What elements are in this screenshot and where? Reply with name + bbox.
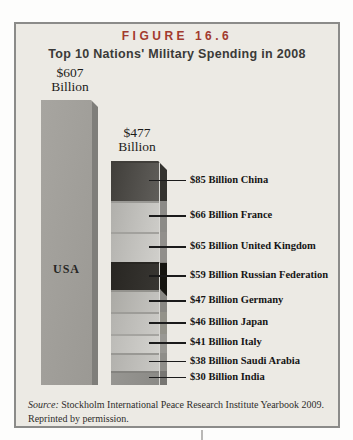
- figure-number: FIGURE 16.6: [16, 29, 338, 43]
- segment-side-france: [159, 201, 167, 232]
- segment-india: [111, 371, 159, 385]
- usa-bar-side: [92, 100, 98, 385]
- segment-russian-federation: [111, 262, 159, 290]
- segment-france: [111, 201, 159, 232]
- source-text: Stockholm International Peace Research I…: [61, 399, 324, 410]
- segment-japan: [111, 312, 159, 334]
- segment-side-japan: [159, 312, 167, 334]
- segment-side-united-kingdom: [159, 232, 167, 263]
- source-note: Source: Stockholm International Peace Re…: [28, 398, 331, 426]
- segment-united-kingdom: [111, 232, 159, 263]
- segment-china: [111, 161, 159, 201]
- page-crease-line: [201, 430, 203, 440]
- segment-side-saudi-arabia: [159, 353, 167, 371]
- segment-side-italy: [159, 334, 167, 353]
- usa-total-unit: Billion: [30, 80, 110, 94]
- segment-germany: [111, 290, 159, 312]
- usa-total-value: $607: [30, 66, 110, 80]
- chart-title: Top 10 Nations' Military Spending in 200…: [16, 47, 338, 61]
- stacked-total-annotation: $477 Billion: [97, 126, 177, 154]
- segment-italy: [111, 334, 159, 353]
- segment-saudi-arabia: [111, 353, 159, 371]
- source-prefix: Source:: [28, 399, 59, 410]
- stacked-bar: [111, 161, 167, 385]
- stacked-total-unit: Billion: [97, 140, 177, 154]
- segment-side-india: [159, 371, 167, 385]
- stacked-bar-front: [111, 161, 159, 385]
- usa-total-annotation: $607 Billion: [30, 66, 110, 94]
- stacked-total-value: $477: [97, 126, 177, 140]
- usa-bar-front: [41, 100, 92, 385]
- usa-bar-label: USA: [41, 262, 92, 277]
- figure-page: FIGURE 16.6 Top 10 Nations' Military Spe…: [0, 0, 353, 440]
- source-line2: Reprinted by permission.: [28, 413, 129, 424]
- usa-bar: [41, 100, 98, 385]
